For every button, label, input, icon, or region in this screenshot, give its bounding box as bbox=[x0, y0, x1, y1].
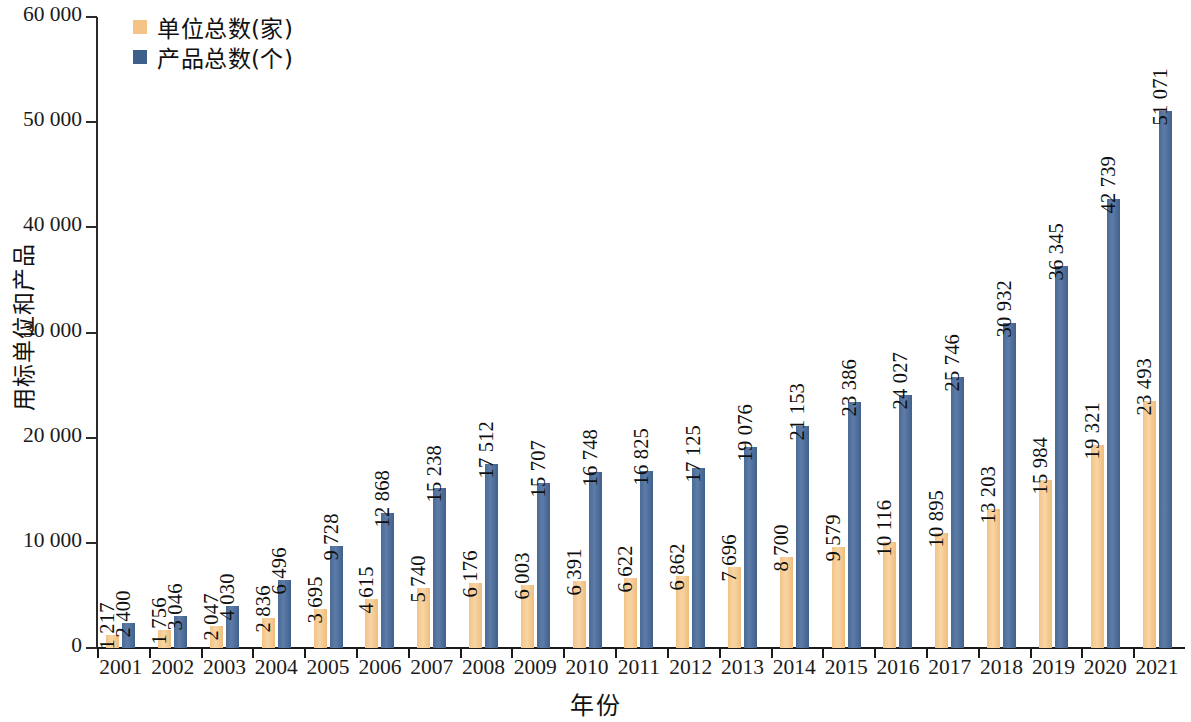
bar-chart: 单位总数(家) 产品总数(个) 010 00020 00030 00040 00… bbox=[0, 0, 1191, 722]
bar-value-label: 9 579 bbox=[822, 515, 843, 562]
bar-series-b bbox=[848, 402, 861, 648]
bar-series-b bbox=[330, 546, 343, 648]
y-tick-label: 50 000 bbox=[0, 107, 82, 132]
y-tick-mark bbox=[86, 437, 97, 439]
bar-value-label: 23 493 bbox=[1133, 358, 1154, 416]
bar-series-a bbox=[1143, 401, 1156, 648]
y-tick-mark bbox=[86, 332, 97, 334]
bar-value-label: 17 512 bbox=[475, 421, 496, 479]
y-tick-mark bbox=[86, 542, 97, 544]
bar-value-label: 6 176 bbox=[459, 550, 480, 597]
bar-series-b bbox=[485, 464, 498, 648]
bar-value-label: 36 345 bbox=[1045, 223, 1066, 281]
y-tick-mark bbox=[86, 121, 97, 123]
bar-value-label: 42 739 bbox=[1097, 155, 1118, 213]
bar-value-label: 15 238 bbox=[424, 445, 445, 503]
bar-value-label: 9 728 bbox=[320, 513, 341, 560]
y-axis-title: 用标单位和产品 bbox=[5, 202, 39, 452]
bar-series-b bbox=[1159, 111, 1172, 648]
bar-value-label: 6 862 bbox=[667, 543, 688, 590]
bar-value-label: 16 748 bbox=[579, 429, 600, 487]
bar-series-b bbox=[537, 483, 550, 648]
bar-series-a bbox=[1091, 445, 1104, 648]
bar-series-a bbox=[935, 533, 948, 648]
y-tick-mark bbox=[86, 226, 97, 228]
bar-series-b bbox=[640, 471, 653, 648]
x-axis-title: 年份 bbox=[0, 686, 1191, 721]
bar-value-label: 6 391 bbox=[563, 548, 584, 595]
bar-value-label: 15 984 bbox=[1029, 437, 1050, 495]
bar-series-b bbox=[692, 468, 705, 648]
bar-value-label: 10 116 bbox=[874, 499, 895, 556]
bar-value-label: 15 707 bbox=[527, 440, 548, 498]
bar-value-label: 8 700 bbox=[770, 524, 791, 571]
bar-value-label: 51 071 bbox=[1149, 68, 1170, 126]
bar-value-label: 30 932 bbox=[994, 280, 1015, 338]
bar-value-label: 17 125 bbox=[683, 425, 704, 483]
bar-value-label: 21 153 bbox=[786, 382, 807, 440]
bar-series-a bbox=[883, 542, 896, 648]
bar-series-b bbox=[1107, 199, 1120, 648]
bar-series-b bbox=[796, 426, 809, 648]
bar-value-label: 10 895 bbox=[926, 490, 947, 548]
bar-value-label: 3 046 bbox=[165, 583, 186, 630]
bar-value-label: 4 030 bbox=[216, 573, 237, 620]
bar-value-label: 4 615 bbox=[356, 567, 377, 614]
x-tick-label: 2021 bbox=[1122, 655, 1191, 680]
bar-series-b bbox=[1055, 266, 1068, 648]
bar-value-label: 13 203 bbox=[978, 466, 999, 524]
bar-value-label: 6 496 bbox=[268, 547, 289, 594]
bar-series-b bbox=[951, 377, 964, 648]
bar-value-label: 24 027 bbox=[890, 352, 911, 410]
bar-value-label: 12 868 bbox=[372, 470, 393, 528]
bar-series-b bbox=[744, 447, 757, 648]
bar-value-label: 16 825 bbox=[631, 428, 652, 486]
bar-value-label: 7 696 bbox=[719, 534, 740, 581]
bar-series-a bbox=[987, 509, 1000, 648]
bar-value-label: 23 386 bbox=[838, 359, 859, 417]
bar-series-b bbox=[433, 488, 446, 648]
y-tick-label: 60 000 bbox=[0, 2, 82, 27]
bar-value-label: 6 622 bbox=[615, 546, 636, 593]
bar-series-a bbox=[1039, 480, 1052, 648]
bar-series-a bbox=[832, 547, 845, 648]
bar-series-b bbox=[899, 395, 912, 648]
bar-value-label: 5 740 bbox=[408, 555, 429, 602]
bar-series-b bbox=[1003, 323, 1016, 648]
y-tick-label: 10 000 bbox=[0, 528, 82, 553]
bar-value-label: 6 003 bbox=[511, 552, 532, 599]
bar-value-label: 19 076 bbox=[735, 404, 756, 462]
bar-value-label: 25 746 bbox=[942, 334, 963, 392]
bar-series-b bbox=[589, 472, 602, 648]
y-tick-label: 0 bbox=[0, 633, 82, 658]
bar-series-b bbox=[381, 513, 394, 648]
bar-value-label: 3 695 bbox=[304, 577, 325, 624]
y-tick-mark bbox=[86, 16, 97, 18]
bar-value-label: 19 321 bbox=[1081, 402, 1102, 460]
plot-area: 1 2172 4001 7563 0462 0474 0302 8366 496… bbox=[97, 17, 1185, 648]
bar-value-label: 2 400 bbox=[113, 590, 134, 637]
